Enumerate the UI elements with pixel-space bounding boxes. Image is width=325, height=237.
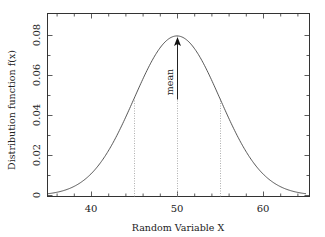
mean-label: mean xyxy=(164,69,175,95)
y-tick-label: 0.04 xyxy=(31,104,42,126)
x-tick-label: 50 xyxy=(171,203,184,214)
y-tick-label: 0.08 xyxy=(31,24,42,46)
distribution-chart: mean 40 50 60 0 0.02 0.04 0.06 0.08 Rand… xyxy=(0,0,325,237)
y-tick-label: 0 xyxy=(31,192,42,198)
x-tick-label: 40 xyxy=(85,203,98,214)
x-axis-label: Random Variable X xyxy=(132,222,225,233)
mean-arrow xyxy=(174,37,181,100)
x-tick-label: 60 xyxy=(257,203,270,214)
y-axis-label: Distribution function f(x) xyxy=(6,50,17,170)
y-tick-label: 0.02 xyxy=(31,144,42,166)
y-tick-label: 0.06 xyxy=(31,64,42,86)
